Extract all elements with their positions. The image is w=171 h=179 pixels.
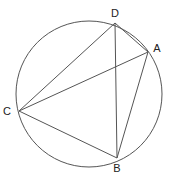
segment-DB (115, 23, 117, 158)
label-B: B (113, 162, 120, 174)
label-C: C (3, 105, 11, 117)
label-D: D (111, 7, 119, 19)
segment-CA (19, 52, 148, 111)
segments (19, 23, 148, 158)
segment-BC (19, 111, 117, 158)
segment-DA (115, 23, 148, 52)
segment-CD (19, 23, 115, 111)
label-A: A (153, 42, 161, 54)
cyclic-quadrilateral-diagram: ABCD (0, 0, 171, 179)
